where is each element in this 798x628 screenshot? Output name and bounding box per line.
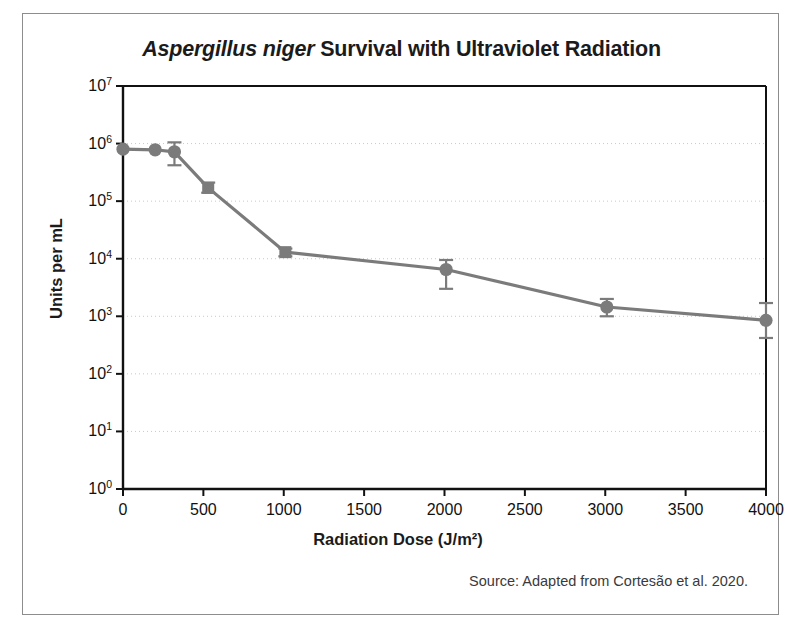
data-point-marker[interactable] [116, 143, 129, 156]
y-tick-label: 104 [64, 250, 112, 268]
y-tick-label: 107 [64, 77, 112, 95]
x-tick-label: 1000 [266, 501, 302, 519]
source-note: Source: Adapted from Cortesão et al. 202… [469, 573, 748, 589]
y-tick-label: 105 [64, 192, 112, 210]
y-axis-title: Units per mL [47, 189, 66, 349]
x-tick-label: 3500 [668, 501, 704, 519]
y-tick-label: 101 [64, 422, 112, 440]
chart-svg [23, 14, 780, 616]
x-tick-label: 2000 [427, 501, 463, 519]
plot-area: 100101102103104105106107 050010001500200… [23, 14, 780, 616]
figure-card: Aspergillus niger Survival with Ultravio… [22, 13, 779, 615]
data-point-marker[interactable] [202, 182, 214, 194]
data-point-marker[interactable] [279, 246, 291, 258]
y-tick-label: 102 [64, 365, 112, 383]
x-tick-label: 3000 [587, 501, 623, 519]
data-point-marker[interactable] [149, 143, 162, 156]
x-tick-label: 500 [190, 501, 217, 519]
data-point-marker[interactable] [168, 145, 181, 158]
y-tick-label: 106 [64, 135, 112, 153]
y-tick-label: 103 [64, 307, 112, 325]
x-tick-label: 0 [119, 501, 128, 519]
data-point-marker[interactable] [440, 263, 453, 276]
x-tick-label: 2500 [507, 501, 543, 519]
x-tick-label: 4000 [748, 501, 784, 519]
data-line [123, 149, 766, 320]
data-point-marker[interactable] [759, 314, 772, 327]
x-tick-label: 1500 [346, 501, 382, 519]
x-axis-title: Radiation Dose (J/m²) [123, 530, 673, 549]
data-point-marker[interactable] [600, 300, 613, 313]
y-tick-label: 100 [64, 480, 112, 498]
